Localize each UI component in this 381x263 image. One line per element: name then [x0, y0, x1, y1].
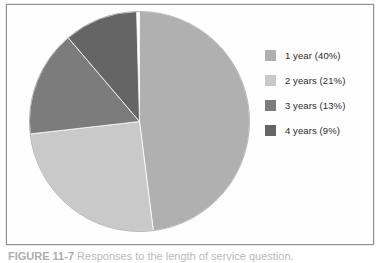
- chart-legend: 1 year (40%) 2 years (21%) 3 years (13%)…: [265, 43, 377, 143]
- legend-label-1-year: 1 year (40%): [285, 50, 341, 61]
- pie-slice-2-years[interactable]: [30, 122, 153, 232]
- legend-item-2-years[interactable]: 2 years (21%): [265, 68, 377, 93]
- figure-caption-text: Responses to the length of service quest…: [77, 250, 293, 262]
- legend-swatch-4-years: [265, 125, 276, 136]
- legend-item-3-years[interactable]: 3 years (13%): [265, 93, 377, 118]
- legend-swatch-1-year: [265, 50, 276, 61]
- figure-frame: 1 year (40%) 2 years (21%) 3 years (13%)…: [6, 4, 374, 245]
- legend-label-4-years: 4 years (9%): [285, 125, 340, 136]
- legend-label-3-years: 3 years (13%): [285, 100, 345, 111]
- legend-label-2-years: 2 years (21%): [285, 75, 345, 86]
- pie-circle: [29, 11, 250, 232]
- legend-swatch-3-years: [265, 100, 276, 111]
- legend-swatch-2-years: [265, 75, 276, 86]
- figure-caption: FIGURE 11-7 Responses to the length of s…: [8, 250, 373, 263]
- pie-slice-group: [30, 12, 250, 232]
- figure-caption-number: FIGURE 11-7: [8, 250, 74, 262]
- pie-slice-1-year[interactable]: [140, 12, 250, 231]
- pie-chart: [29, 11, 257, 239]
- legend-item-4-years[interactable]: 4 years (9%): [265, 118, 377, 143]
- figure-root: 1 year (40%) 2 years (21%) 3 years (13%)…: [0, 0, 381, 263]
- legend-item-1-year[interactable]: 1 year (40%): [265, 43, 377, 68]
